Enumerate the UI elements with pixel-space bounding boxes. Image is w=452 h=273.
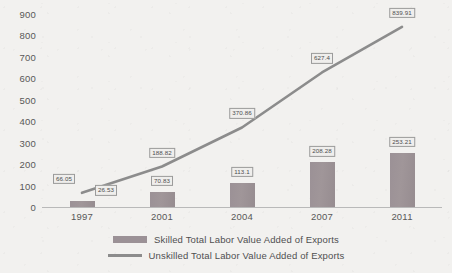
data-label-unskilled-2004: 370.86 <box>229 108 255 118</box>
x-axis-line <box>42 207 442 208</box>
x-axis-tick-1997: 1997 <box>71 211 93 222</box>
plot-area: 26.5370.83113.1208.28253.2166.05188.8237… <box>42 14 442 207</box>
x-axis-tick-2004: 2004 <box>231 211 253 222</box>
data-label-skilled-2001: 70.83 <box>151 176 173 186</box>
data-label-skilled-2004: 113.1 <box>231 167 253 177</box>
x-axis-tick-2007: 2007 <box>311 211 333 222</box>
data-label-unskilled-2011: 839.91 <box>389 8 415 18</box>
y-axis-tick-100: 100 <box>20 180 36 191</box>
y-axis-tick-300: 300 <box>20 137 36 148</box>
legend-label-unskilled: Unskilled Total Labor Value Added of Exp… <box>149 250 345 261</box>
data-label-unskilled-2001: 188.82 <box>149 147 175 157</box>
x-axis-tick-2001: 2001 <box>151 211 173 222</box>
data-label-skilled-1997: 26.53 <box>95 185 117 195</box>
legend-swatch-bar-icon <box>113 236 147 243</box>
x-axis-tick-2011: 2011 <box>391 211 412 222</box>
y-axis-tick-500: 500 <box>20 94 36 105</box>
chart-container: 0100200300400500600700800900 26.5370.831… <box>0 0 452 273</box>
legend-item-unskilled: Unskilled Total Labor Value Added of Exp… <box>108 250 345 261</box>
y-axis-tick-900: 900 <box>20 9 36 20</box>
chart-legend: Skilled Total Labor Value Added of Expor… <box>0 234 452 261</box>
y-axis-tick-800: 800 <box>20 30 36 41</box>
y-axis-tick-0: 0 <box>31 202 36 213</box>
data-label-skilled-2007: 208.28 <box>309 146 335 156</box>
y-axis-tick-400: 400 <box>20 116 36 127</box>
y-axis-tick-700: 700 <box>20 51 36 62</box>
data-label-unskilled-2007: 627.4 <box>311 53 333 63</box>
y-axis-tick-200: 200 <box>20 159 36 170</box>
y-axis-tick-labels: 0100200300400500600700800900 <box>0 0 36 207</box>
data-label-skilled-2011: 253.21 <box>389 137 415 147</box>
legend-item-skilled: Skilled Total Labor Value Added of Expor… <box>113 234 339 245</box>
legend-swatch-line-icon <box>108 254 142 257</box>
legend-label-skilled: Skilled Total Labor Value Added of Expor… <box>154 234 339 245</box>
y-axis-tick-600: 600 <box>20 73 36 84</box>
data-label-unskilled-1997: 66.05 <box>53 174 75 184</box>
